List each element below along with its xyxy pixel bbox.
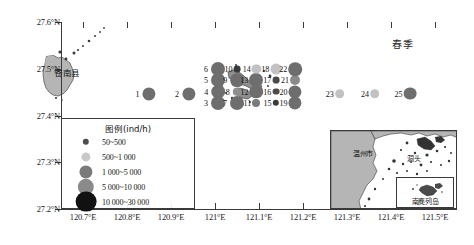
station-dot[interactable] [335,89,345,99]
station-dot[interactable] [288,62,302,76]
station-dot[interactable] [234,66,241,73]
x-axis-tick-top [215,22,216,28]
y-axis-tick-label: 27.5°N [37,64,60,74]
station-dot[interactable] [230,96,244,110]
x-axis-tick-top [171,22,172,28]
x-axis-tick-top [303,22,304,28]
x-axis-tick-top [127,22,128,28]
station-number-label: 12 [241,87,249,96]
station-number-label: 17 [263,75,271,84]
x-axis-tick-top [435,22,436,28]
x-axis-tick-label: 121.3°E [334,212,360,222]
station-number-label: 5 [204,75,208,84]
y-axis-tick-label: 27.3°N [37,157,60,167]
x-axis-tick [215,203,216,210]
legend-title: 图例(ind/h) [62,122,194,134]
inset-place-label: 温州市 [353,148,373,158]
station-number-label: 20 [279,87,287,96]
station-number-label: 19 [279,98,287,107]
station-number-label: 22 [279,65,287,74]
inset-place-label: 洞头 [407,153,420,163]
x-axis-tick [303,203,304,210]
station-number-label: 9 [223,75,227,84]
station-number-label: 1 [135,89,139,98]
season-label: 春季 [392,36,413,51]
station-dot[interactable] [249,73,263,87]
station-number-label: 14 [243,65,251,74]
x-axis-tick-top [347,22,348,28]
station-dot[interactable] [211,62,225,76]
legend-symbol [79,165,92,178]
legend-label: 10 000~30 000 [102,197,149,206]
legend-box: 图例(ind/h) 50~500500~1 0001 000~5 0005 00… [62,118,195,209]
station-dot[interactable] [252,99,260,107]
y-axis-tick-label: 27.4°N [37,111,60,121]
legend-label: 50~500 [102,137,126,146]
station-number-label: 3 [204,98,208,107]
x-axis-tick-top [259,22,260,28]
x-axis-tick-label: 120.8°E [114,212,140,222]
x-axis-tick-label: 120.9°E [158,212,184,222]
station-number-label: 11 [244,98,252,107]
station-dot[interactable] [272,77,279,84]
x-axis-tick-label: 121.5°E [422,212,448,222]
y-axis-tick-label: 27.2°N [37,204,60,214]
station-number-label: 10 [225,65,233,74]
x-axis-tick-label: 120.7°E [70,212,96,222]
station-number-label: 8 [226,87,230,96]
legend-row: 500~1 000 [62,149,194,164]
x-axis-tick [259,203,260,210]
nanji-islands-inset: 南麂列岛 [396,177,454,208]
station-dot[interactable] [290,75,300,85]
station-number-label: 16 [263,87,271,96]
station-number-label: 18 [261,65,269,74]
y-axis-tick-label: 27.6°N [37,17,60,27]
station-dot[interactable] [404,87,417,100]
legend-label: 500~1 000 [102,152,135,161]
legend-row: 10 000~30 000 [62,194,194,209]
station-number-label: 13 [240,75,248,84]
nanji-islands-label: 南麂列岛 [397,196,453,206]
station-number-label: 4 [204,87,208,96]
station-dot[interactable] [272,88,279,95]
legend-row: 1 000~5 000 [62,164,194,179]
station-number-label: 23 [326,89,334,98]
x-axis-tick-label: 121.2°E [290,212,316,222]
station-number-label: 15 [264,98,272,107]
station-number-label: 6 [204,65,208,74]
station-number-label: 25 [395,89,403,98]
legend-label: 1 000~5 000 [102,167,141,176]
legend-symbol [81,152,90,161]
station-number-label: 21 [281,75,289,84]
station-number-label: 2 [175,89,179,98]
x-axis-tick-top [83,22,84,28]
station-dot[interactable] [370,89,380,99]
legend-symbol [76,191,97,212]
x-axis-tick-label: 121.4°E [378,212,404,222]
figure-canvas: 春季 苍南县 27.6°N27.5°N27.4°N27.3°N27.2°N120… [0,0,474,245]
x-axis-tick-label: 121°E [205,212,225,222]
x-axis-tick-label: 121.1°E [246,212,272,222]
x-axis-tick-top [391,22,392,28]
legend-label: 5 000~10 000 [102,182,145,191]
legend-symbol [83,138,89,144]
station-number-label: 7 [223,98,227,107]
station-number-label: 24 [361,89,369,98]
legend-row: 50~500 [62,134,194,149]
